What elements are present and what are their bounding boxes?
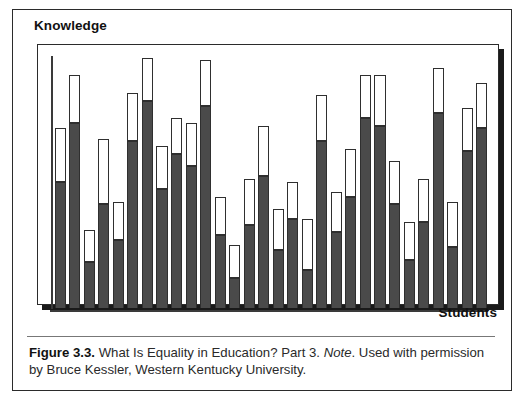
bar-segment-remaining: [433, 68, 444, 114]
bar-segment-attained: [287, 219, 298, 308]
bar-group: [98, 139, 109, 309]
caption-note-word: Note: [324, 345, 352, 360]
bar-segment-attained: [113, 240, 124, 308]
bar-group: [404, 222, 415, 308]
bar-segment-remaining: [171, 118, 182, 153]
bar-segment-remaining: [69, 75, 80, 123]
bar-segment-attained: [360, 118, 371, 308]
bar-group: [171, 118, 182, 308]
bar-group: [244, 179, 255, 308]
bar-group: [142, 58, 153, 308]
bar-group: [273, 209, 284, 308]
bar-segment-attained: [433, 113, 444, 308]
bar-segment-remaining: [229, 245, 240, 278]
bar-segment-attained: [404, 260, 415, 308]
bar-group: [360, 75, 371, 308]
bar-group: [345, 149, 356, 308]
bar-group: [374, 75, 385, 308]
caption-title-text: What Is Equality in Education? Part 3.: [95, 345, 324, 360]
bar-segment-attained: [418, 222, 429, 308]
bar-segment-attained: [55, 182, 66, 309]
bar-segment-remaining: [389, 161, 400, 204]
bar-group: [84, 230, 95, 308]
bar-segment-remaining: [316, 95, 327, 141]
bar-segment-remaining: [287, 182, 298, 220]
bar-segment-remaining: [215, 197, 226, 235]
bar-segment-attained: [156, 189, 167, 308]
bar-segment-remaining: [113, 202, 124, 240]
bar-segment-attained: [374, 126, 385, 308]
bar-segment-attained: [127, 141, 138, 308]
bar-group: [476, 83, 487, 308]
bar-segment-attained: [229, 278, 240, 308]
bar-segment-remaining: [127, 93, 138, 141]
bar-segment-attained: [171, 154, 182, 308]
bar-segment-remaining: [360, 75, 371, 118]
bar-segment-attained: [476, 128, 487, 308]
bar-segment-remaining: [447, 202, 458, 248]
bar-segment-remaining: [273, 209, 284, 249]
bar-group: [433, 68, 444, 308]
bar-segment-remaining: [142, 58, 153, 101]
bar-segment-attained: [258, 176, 269, 308]
bar-segment-attained: [447, 247, 458, 308]
bar-group: [316, 95, 327, 308]
bar-group: [113, 202, 124, 308]
bar-segment-attained: [142, 101, 153, 308]
bar-group: [200, 60, 211, 308]
bar-series-layer: [53, 44, 489, 309]
bar-segment-attained: [345, 197, 356, 308]
bar-segment-remaining: [302, 219, 313, 270]
bar-group: [229, 245, 240, 308]
bar-group: [69, 75, 80, 308]
figure-container: Knowledge Students Figure 3.3. What Is E…: [12, 9, 512, 391]
bar-segment-attained: [273, 250, 284, 308]
bar-segment-remaining: [476, 83, 487, 129]
bar-group: [127, 93, 138, 308]
bar-group: [418, 179, 429, 308]
bar-group: [447, 202, 458, 308]
bar-group: [462, 108, 473, 308]
bar-segment-remaining: [98, 139, 109, 205]
bar-segment-attained: [389, 204, 400, 308]
bar-segment-remaining: [374, 75, 385, 126]
bar-segment-attained: [215, 235, 226, 308]
bar-group: [331, 192, 342, 308]
bar-segment-remaining: [55, 128, 66, 181]
bar-segment-attained: [69, 123, 80, 308]
bar-group: [215, 197, 226, 308]
bar-group: [287, 182, 298, 309]
bar-segment-remaining: [345, 149, 356, 197]
bar-segment-attained: [316, 141, 327, 308]
bar-segment-attained: [84, 262, 95, 308]
bar-group: [302, 219, 313, 308]
caption-figure-number: Figure 3.3.: [29, 345, 95, 360]
figure-caption: Figure 3.3. What Is Equality in Educatio…: [29, 344, 497, 379]
bar-segment-remaining: [244, 179, 255, 225]
bar-segment-remaining: [186, 123, 197, 166]
x-axis-label: Students: [438, 305, 497, 320]
caption-divider: [27, 336, 495, 337]
bar-segment-attained: [186, 166, 197, 308]
bar-segment-attained: [302, 270, 313, 308]
bar-segment-attained: [331, 232, 342, 308]
bar-group: [55, 128, 66, 308]
bar-segment-remaining: [462, 108, 473, 151]
chart-region: Knowledge Students: [13, 10, 511, 336]
bar-group: [186, 123, 197, 308]
bar-segment-attained: [98, 204, 109, 308]
bar-segment-remaining: [404, 222, 415, 260]
bar-segment-remaining: [84, 230, 95, 263]
bar-segment-attained: [462, 151, 473, 308]
y-axis-label: Knowledge: [34, 18, 107, 33]
bar-segment-remaining: [156, 146, 167, 189]
bar-segment-remaining: [258, 126, 269, 177]
bar-group: [389, 161, 400, 308]
bar-group: [258, 126, 269, 308]
bar-group: [156, 146, 167, 308]
plot-canvas: [37, 44, 499, 305]
bar-segment-attained: [200, 106, 211, 308]
bar-segment-remaining: [418, 179, 429, 222]
bar-segment-remaining: [331, 192, 342, 232]
x-axis-line: [50, 310, 488, 312]
